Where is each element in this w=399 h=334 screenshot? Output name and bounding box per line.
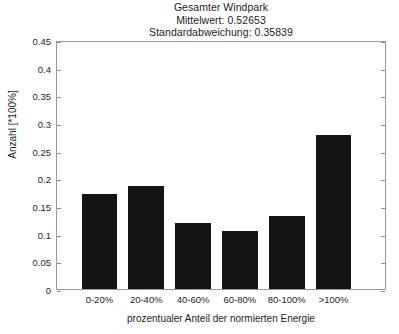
y-axis-tick-mark [381,236,385,237]
chart-figure: Gesamter Windpark Mittelwert: 0.52653 St… [0,0,399,334]
y-axis-tick-mark [381,125,385,126]
y-axis-tick-mark [381,291,385,292]
bar [82,194,118,289]
x-axis-tick-label: 0-20% [86,294,113,305]
bar [316,135,352,289]
y-axis-tick-mark [381,208,385,209]
plot-area: 00.050.10.150.20.250.30.350.40.450-20%20… [57,42,385,289]
y-axis-tick-mark [57,263,61,264]
y-axis-tick-mark [381,42,385,43]
y-axis-tick-label: 0.1 [1,230,57,242]
y-axis-tick-label: 0.45 [1,36,57,48]
y-axis-tick-mark [57,70,61,71]
y-axis-tick-mark [381,97,385,98]
x-axis-tick-label: 40-60% [177,294,210,305]
chart-subtitle-mean: Mittelwert: 0.52653 [55,14,387,27]
y-axis-tick-mark [57,153,61,154]
y-axis-tick-mark [57,42,61,43]
y-axis-tick-label: 0.4 [1,64,57,76]
y-axis-tick-label: 0.05 [1,257,57,269]
x-axis-tick-label: >100% [319,294,349,305]
chart-title-block: Gesamter Windpark Mittelwert: 0.52653 St… [55,1,387,39]
y-axis-tick-mark [57,180,61,181]
y-axis-tick-label: 0.35 [1,91,57,103]
bar [222,231,258,289]
y-axis-tick-mark [57,291,61,292]
y-axis-tick-mark [57,125,61,126]
y-axis-tick-label: 0.15 [1,202,57,214]
bar [128,186,164,289]
y-axis-tick-label: 0.2 [1,174,57,186]
y-axis-tick-mark [381,263,385,264]
y-axis-tick-mark [57,97,61,98]
x-axis-tick-label: 80-100% [268,294,306,305]
y-axis-tick-mark [381,180,385,181]
y-axis-tick-mark [57,236,61,237]
y-axis-tick-mark [381,153,385,154]
y-axis-tick-label: 0.3 [1,119,57,131]
bar [269,216,305,289]
plot-frame: 00.050.10.150.20.250.30.350.40.450-20%20… [56,41,386,290]
x-axis-tick-label: 60-80% [224,294,257,305]
x-axis-label: prozentualer Anteil der normierten Energ… [56,313,386,324]
y-axis-tick-label: 0.25 [1,147,57,159]
y-axis-tick-mark [57,208,61,209]
y-axis-tick-label: 0 [1,285,57,297]
chart-subtitle-stddev: Standardabweichung: 0.35839 [55,26,387,39]
bar [175,223,211,289]
chart-title: Gesamter Windpark [55,1,387,14]
y-axis-tick-mark [381,70,385,71]
x-axis-tick-label: 20-40% [130,294,163,305]
